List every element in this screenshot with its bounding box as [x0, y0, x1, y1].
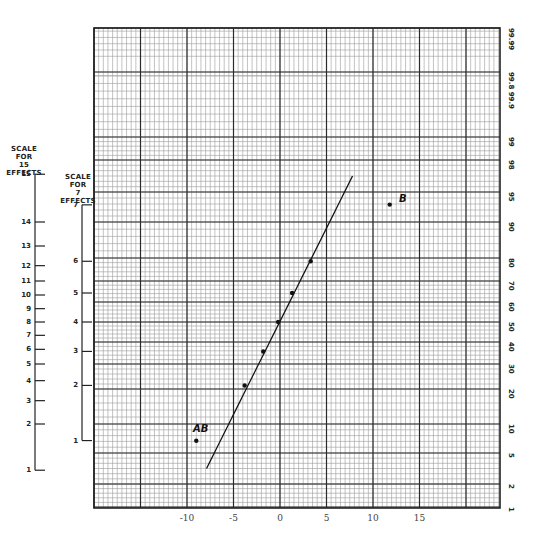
scale-7-title-line: EFFECTS	[58, 197, 98, 205]
minor-vertical-gridlines	[94, 28, 499, 508]
scale-tick-label: 11	[19, 277, 31, 285]
scale-tick-label: 1	[66, 437, 78, 445]
scale-15-title-line: 15	[4, 161, 44, 169]
scale-tick-label: 12	[19, 262, 31, 270]
probability-axis-label: 60	[507, 302, 515, 312]
x-axis-tick-label: 5	[324, 513, 330, 523]
data-point	[290, 291, 294, 295]
scale-7-title-line: SCALE	[58, 173, 98, 181]
scale-tick-label: 14	[19, 218, 31, 226]
x-axis-tick-label: -5	[229, 513, 238, 523]
probability-axis-label: 2	[507, 484, 515, 489]
data-point	[388, 202, 392, 206]
scale-tick-label: 7	[19, 331, 31, 339]
probability-axis-label: 5	[507, 453, 515, 458]
probability-axis-label: 20	[507, 389, 515, 399]
data-point	[308, 259, 312, 263]
scale-tick-label: 2	[19, 420, 31, 428]
scale-tick-label: 2	[66, 381, 78, 389]
probability-axis-label: 10	[507, 424, 515, 434]
scale-tick-label: 6	[19, 345, 31, 353]
probability-axis-label: 95	[507, 192, 515, 202]
scale-tick-label: 13	[19, 242, 31, 250]
scale-tick-label: 10	[19, 291, 31, 299]
x-axis-tick-label: 15	[414, 513, 425, 523]
probability-paper-grid	[0, 0, 542, 541]
probability-axis-label: 99.99	[507, 28, 515, 50]
scale-tick-label: 6	[66, 257, 78, 265]
scale-tick-label: 5	[66, 289, 78, 297]
normal-probability-plot: SCALE FOR 15 EFFECTS SCALE FOR 7 EFFECTS…	[0, 0, 542, 541]
scale-tick-label: 9	[19, 305, 31, 313]
data-points	[194, 202, 392, 443]
scale-tick-label: 4	[66, 318, 78, 326]
scale-7-title: SCALE FOR 7 EFFECTS	[58, 173, 98, 205]
x-axis-tick-label: 0	[277, 513, 283, 523]
scale-tick-label: 5	[19, 360, 31, 368]
scale-tick-label: 3	[19, 397, 31, 405]
scale-tick-label: 3	[66, 347, 78, 355]
probability-axis-label: 1	[507, 507, 515, 512]
x-axis-tick-label: 10	[367, 513, 378, 523]
scale-15-title-line: SCALE	[4, 145, 44, 153]
probability-axis-label: 99	[507, 137, 515, 147]
probability-axis-label: 99.8 99.9	[507, 72, 515, 109]
data-point	[194, 439, 198, 443]
scale-tick-label: 1	[19, 466, 31, 474]
scale-tick-label: 4	[19, 377, 31, 385]
scale-7-title-line: FOR	[58, 181, 98, 189]
probability-axis-label: 70	[507, 281, 515, 291]
probability-axis-label: 98	[507, 160, 515, 170]
data-point	[242, 383, 246, 387]
probability-axis-label: 50	[507, 322, 515, 332]
scale-7-title-line: 7	[58, 189, 98, 197]
scale-tick-label: 8	[19, 318, 31, 326]
plot-frame	[94, 28, 500, 508]
probability-axis-label: 80	[507, 258, 515, 268]
probability-axis-label: 30	[507, 364, 515, 374]
probability-axis-label: 90	[507, 222, 515, 232]
scale-15-title-line: FOR	[4, 153, 44, 161]
x-axis-tick-label: -10	[180, 513, 195, 523]
scale-tick-label: 15	[19, 170, 31, 178]
effect-rank-scales	[35, 174, 92, 470]
probability-axis-label: 40	[507, 342, 515, 352]
data-point	[261, 349, 265, 353]
point-label-ab: AB	[193, 423, 208, 434]
scale-tick-label: 7	[66, 201, 78, 209]
minor-horizontal-gridlines	[94, 31, 500, 507]
data-point	[276, 320, 280, 324]
point-label-b: B	[399, 193, 407, 204]
